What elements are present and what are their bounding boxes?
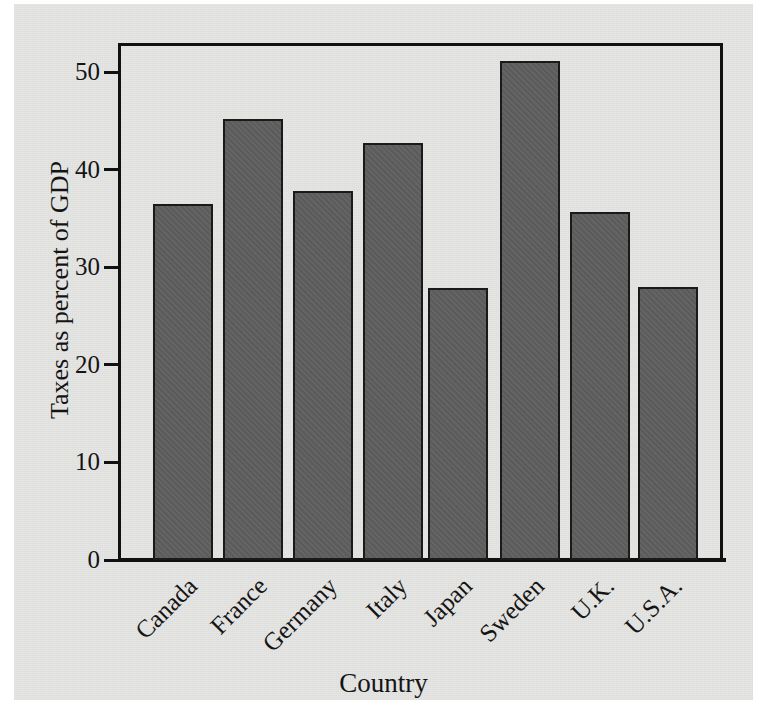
y-tick-20 bbox=[104, 363, 118, 366]
bar-u-k bbox=[570, 212, 630, 560]
bar-japan bbox=[428, 288, 488, 560]
y-tick-40 bbox=[104, 168, 118, 171]
y-tick-label-0: 0 bbox=[40, 547, 100, 572]
figure-canvas: Taxes as percent of GDP 01020304050 Cana… bbox=[0, 0, 767, 724]
bar-sweden bbox=[500, 61, 560, 560]
y-tick-0 bbox=[104, 559, 118, 562]
bar-u-s-a bbox=[638, 287, 698, 560]
y-tick-50 bbox=[104, 71, 118, 74]
bar-italy bbox=[363, 143, 423, 561]
x-axis-title: Country bbox=[0, 668, 767, 699]
bar-series bbox=[118, 43, 723, 560]
bar-canada bbox=[153, 204, 213, 560]
bar-france bbox=[223, 119, 283, 560]
y-tick-label-10: 10 bbox=[40, 449, 100, 474]
y-tick-label-50: 50 bbox=[40, 59, 100, 84]
y-tick-label-40: 40 bbox=[40, 157, 100, 182]
y-axis-tick-labels: 01020304050 bbox=[32, 0, 100, 724]
y-tick-30 bbox=[104, 266, 118, 269]
y-tick-label-20: 20 bbox=[40, 352, 100, 377]
bar-germany bbox=[293, 191, 353, 560]
y-tick-label-30: 30 bbox=[40, 254, 100, 279]
y-tick-10 bbox=[104, 461, 118, 464]
